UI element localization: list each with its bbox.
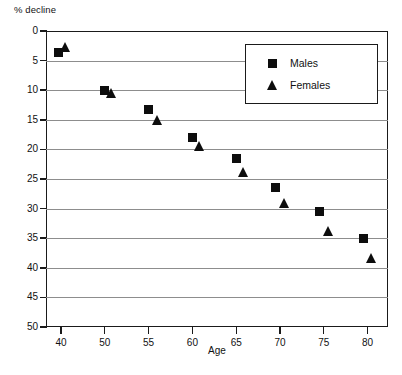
x-tick-label: 55 (134, 337, 164, 348)
y-tick-mark (40, 326, 47, 328)
y-tick-mark (40, 30, 47, 32)
y-tick-label: 25 (12, 173, 38, 184)
data-point-males (315, 207, 324, 216)
data-point-females (238, 167, 248, 177)
x-tick-mark (192, 327, 193, 334)
x-axis-title: Age (187, 345, 247, 356)
x-tick-mark (323, 327, 324, 334)
x-tick-mark (104, 327, 105, 334)
y-tick-label: 30 (12, 203, 38, 214)
chart-legend: Males Females (245, 44, 378, 104)
gridline (46, 209, 388, 210)
data-point-females (366, 253, 376, 263)
data-point-males (144, 105, 153, 114)
gridline (46, 238, 388, 239)
legend-label-females: Females (290, 79, 330, 91)
y-tick-label: 10 (12, 84, 38, 95)
data-point-females (323, 226, 333, 236)
gridline (46, 179, 388, 180)
x-tick-label: 70 (265, 337, 295, 348)
y-axis-title: % decline (14, 4, 56, 15)
x-tick-mark (279, 327, 280, 334)
legend-triangle-icon (264, 80, 280, 90)
data-point-females (152, 115, 162, 125)
y-tick-label: 5 (12, 55, 38, 66)
x-tick-label: 80 (353, 337, 383, 348)
x-tick-label: 50 (90, 337, 120, 348)
y-tick-label: 50 (12, 321, 38, 332)
x-tick-label: 40 (46, 337, 76, 348)
x-tick-mark (236, 327, 237, 334)
data-point-females (60, 42, 70, 52)
y-tick-label: 20 (12, 143, 38, 154)
legend-label-males: Males (290, 57, 318, 69)
legend-square-icon (264, 59, 280, 68)
data-point-females (279, 198, 289, 208)
y-tick-label: 40 (12, 262, 38, 273)
x-tick-mark (367, 327, 368, 334)
gridline (46, 297, 388, 298)
legend-item-males: Males (264, 56, 318, 70)
data-point-males (359, 234, 368, 243)
x-tick-mark (60, 327, 61, 334)
x-tick-mark (148, 327, 149, 334)
y-tick-label: 45 (12, 291, 38, 302)
legend-item-females: Females (264, 78, 330, 92)
gridline (46, 268, 388, 269)
data-point-females (194, 141, 204, 151)
y-tick-label: 35 (12, 232, 38, 243)
data-point-females (106, 88, 116, 98)
scatter-chart-figure: % decline 05101520253035404550 405055606… (0, 0, 402, 375)
data-point-males (271, 183, 280, 192)
data-point-males (232, 154, 241, 163)
y-tick-label: 0 (12, 25, 38, 36)
x-tick-label: 75 (309, 337, 339, 348)
gridline (46, 149, 388, 150)
y-tick-label: 15 (12, 114, 38, 125)
gridline (46, 120, 388, 121)
